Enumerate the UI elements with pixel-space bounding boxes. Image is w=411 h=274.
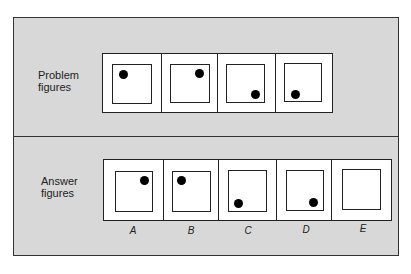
answer-option-c[interactable]	[219, 160, 277, 220]
problem-figures-label: Problem figures	[38, 69, 79, 93]
problem-figure-3	[218, 54, 277, 112]
answer-figures-label: Answer figures	[41, 175, 78, 199]
square-frame	[112, 64, 152, 104]
square-frame	[286, 170, 324, 211]
dot-marker	[119, 70, 128, 79]
dot-marker	[140, 176, 149, 185]
option-label-a: A	[123, 225, 143, 236]
answer-figures-strip	[103, 159, 392, 221]
problem-figures-strip	[102, 53, 333, 113]
square-frame	[342, 169, 381, 210]
problem-figure-4	[276, 54, 332, 112]
dot-marker	[291, 90, 300, 99]
dot-marker	[234, 199, 243, 208]
answer-option-a[interactable]	[104, 160, 164, 220]
section-divider	[13, 136, 399, 137]
problem-figure-1	[103, 54, 162, 112]
option-label-b: B	[181, 225, 201, 236]
square-frame	[170, 64, 210, 103]
dot-marker	[195, 69, 204, 78]
option-label-e: E	[353, 223, 373, 234]
option-label-d: D	[296, 224, 316, 235]
dot-marker	[177, 176, 186, 185]
answer-option-d[interactable]	[277, 160, 333, 220]
square-frame	[284, 63, 322, 102]
answer-option-b[interactable]	[164, 160, 220, 220]
option-label-c: C	[238, 225, 258, 236]
answer-option-e[interactable]	[332, 160, 391, 220]
dot-marker	[309, 198, 318, 207]
problem-figure-2	[162, 54, 218, 112]
dot-marker	[251, 90, 260, 99]
